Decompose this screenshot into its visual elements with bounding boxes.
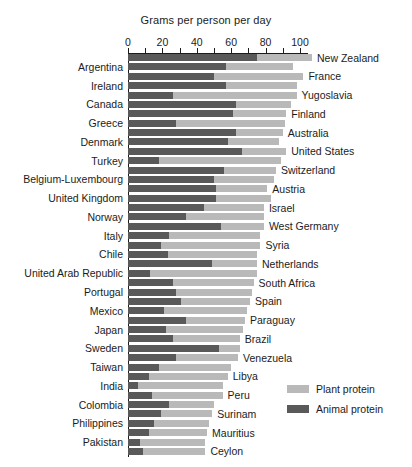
bar-segment-animal-protein [128,73,214,80]
bar-label-right: Surinam [217,408,256,420]
stacked-bar [128,260,257,267]
bar-segment-plant-protein [212,260,257,267]
bar-row: Paraguay [128,317,412,324]
bar-segment-plant-protein [140,439,205,446]
bar-row: Yugoslavia [128,92,412,99]
stacked-bar [128,354,238,361]
bar-segment-animal-protein [128,364,159,371]
bar-label-right: South Africa [259,277,316,289]
stacked-bar [128,382,223,389]
bar-label-left: Canada [86,98,123,110]
bar-segment-animal-protein [128,148,242,155]
stacked-bar [128,73,303,80]
stacked-bar [128,448,205,455]
bar-label-left: United Kingdom [48,192,123,204]
x-axis-tick-label-20: 20 [157,36,169,48]
bar-segment-animal-protein [128,138,228,145]
bar-label-right: Ceylon [210,445,243,457]
bar-label-right: Brazil [245,333,271,345]
x-axis-tick-label-40: 40 [191,36,203,48]
bar-segment-plant-protein [214,73,303,80]
bar-segment-animal-protein [128,345,219,352]
x-axis: 020406080100 [128,40,300,54]
bar-label-right: West Germany [269,220,339,232]
bar-row: Switzerland [128,167,412,174]
bar-segment-animal-protein [128,92,173,99]
bar-label-left: Italy [104,230,123,242]
chart-title: Grams per person per day [0,14,412,26]
stacked-bar [128,401,214,408]
bar-row: Greece [128,120,412,127]
bar-row: Ceylon [128,448,412,455]
x-axis-tick-70 [248,48,249,54]
bar-segment-animal-protein [128,232,169,239]
bar-segment-plant-protein [257,54,312,61]
stacked-bar [128,345,240,352]
bar-segment-animal-protein [128,317,186,324]
bar-label-left: Argentina [78,61,123,73]
bar-segment-animal-protein [128,176,214,183]
bar-label-right: Yugoslavia [302,89,353,101]
stacked-bar [128,185,267,192]
bar-label-right: Libya [233,370,258,382]
bar-segment-animal-protein [128,54,257,61]
bar-label-right: Mauritius [212,427,255,439]
bar-segment-animal-protein [128,298,181,305]
bar-segment-plant-protein [143,448,205,455]
bar-label-right: United States [291,145,354,157]
bar-segment-plant-protein [138,382,222,389]
bar-segment-animal-protein [128,448,143,455]
bar-segment-animal-protein [128,204,204,211]
bar-row: Israel [128,204,412,211]
bar-row: Denmark [128,138,412,145]
bar-row: New Zealand [128,54,412,61]
bar-segment-plant-protein [216,185,268,192]
bar-segment-plant-protein [176,120,284,127]
bar-label-left: Chile [99,248,123,260]
bar-segment-animal-protein [128,223,221,230]
bar-segment-plant-protein [219,345,240,352]
x-axis-tick-10 [145,48,146,54]
bar-segment-animal-protein [128,335,173,342]
legend-item-plant: Plant protein [287,381,407,397]
stacked-bar [128,129,283,136]
bar-segment-plant-protein [149,429,207,436]
stacked-bar [128,148,286,155]
bar-segment-plant-protein [226,82,297,89]
bar-segment-animal-protein [128,420,154,427]
stacked-bar [128,317,245,324]
stacked-bar [128,223,264,230]
bar-segment-animal-protein [128,392,152,399]
bar-segment-plant-protein [242,148,287,155]
bar-row: Pakistan [128,439,412,446]
bar-label-right: Austria [272,183,305,195]
bar-row: Turkey [128,157,412,164]
bar-segment-plant-protein [181,298,250,305]
bar-segment-animal-protein [128,167,224,174]
bar-segment-animal-protein [128,213,186,220]
bar-segment-plant-protein [224,167,276,174]
bar-label-right: Finland [291,108,325,120]
bar-row: Ireland [128,82,412,89]
bar-segment-animal-protein [128,157,159,164]
bar-segment-plant-protein [149,373,228,380]
bar-label-right: Switzerland [281,164,335,176]
stacked-bar [128,92,297,99]
bar-label-right: Spain [255,295,282,307]
bar-segment-animal-protein [128,373,149,380]
bar-segment-plant-protein [150,270,257,277]
stacked-bar [128,373,228,380]
bar-segment-plant-protein [214,176,274,183]
bar-segment-plant-protein [176,289,252,296]
bar-segment-plant-protein [204,204,264,211]
stacked-bar [128,364,231,371]
bar-segment-plant-protein [161,410,213,417]
stacked-bar [128,138,279,145]
stacked-bar [128,101,291,108]
bar-segment-plant-protein [169,232,260,239]
legend-swatch-plant-icon [287,385,309,393]
bar-label-left: Denmark [80,136,123,148]
bar-segment-plant-protein [164,307,247,314]
bar-label-left: Greece [89,117,123,129]
bar-segment-plant-protein [168,251,257,258]
